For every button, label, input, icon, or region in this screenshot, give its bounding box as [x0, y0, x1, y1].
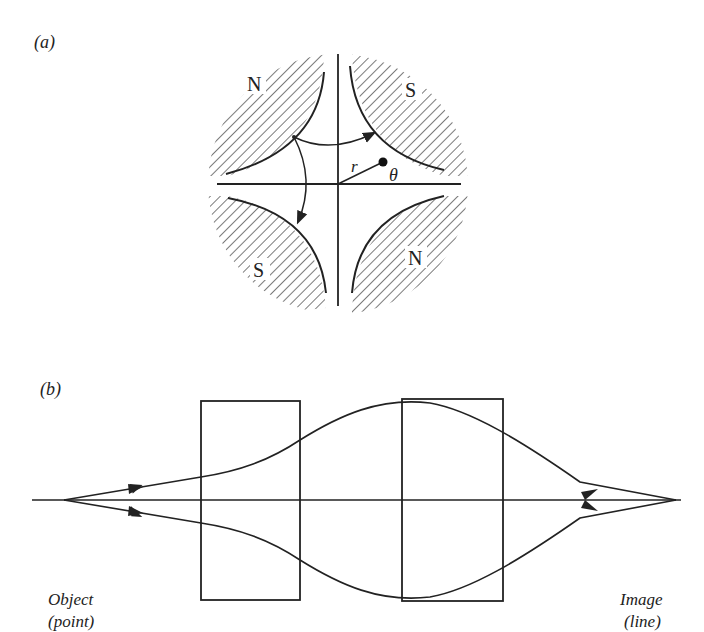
- panel-b-label: (b): [40, 379, 61, 400]
- field-line-arrow-down: [294, 137, 306, 222]
- quadrupole-diagram: (a) N S S N r θ (b): [0, 0, 704, 632]
- upper-ray: [64, 402, 676, 500]
- pole-label-top-left: N: [247, 73, 261, 95]
- point-marker: [379, 158, 388, 167]
- pole-label-bottom-left: S: [253, 259, 264, 281]
- pole-top-left: [200, 40, 324, 176]
- pole-label-top-right: S: [405, 79, 416, 101]
- image-label: Image: [619, 590, 663, 609]
- radius-label: r: [351, 157, 358, 176]
- pole-top-right: [352, 40, 480, 176]
- angle-label: θ: [389, 165, 398, 185]
- image-sublabel: (line): [624, 612, 661, 631]
- pole-label-bottom-right: N: [408, 247, 422, 269]
- object-label: Object: [48, 590, 95, 609]
- pole-pieces: [200, 40, 480, 320]
- object-sublabel: (point): [48, 612, 95, 631]
- panel-a-label: (a): [34, 32, 55, 53]
- radius-vector: [338, 162, 383, 184]
- lower-ray: [64, 500, 676, 598]
- field-line-arrow-right: [294, 133, 374, 145]
